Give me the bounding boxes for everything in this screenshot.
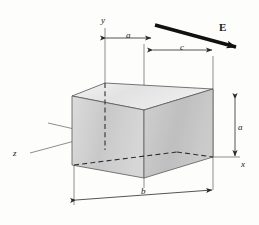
dimension-label-a-right: a <box>238 123 243 132</box>
box-solid <box>72 83 213 178</box>
physics-figure-container: y z x E a c a b <box>0 0 259 225</box>
dimension-label-c-top: c <box>180 43 184 52</box>
dimension-label-b-bottom: b <box>141 187 146 196</box>
axis-label-z: z <box>13 149 17 158</box>
box-shading-overlay-front <box>72 96 144 178</box>
axis-label-y: y <box>101 16 105 25</box>
axis-label-x: x <box>241 160 245 169</box>
field-label-E: E <box>219 22 226 33</box>
dimension-label-a-top: a <box>126 31 131 40</box>
